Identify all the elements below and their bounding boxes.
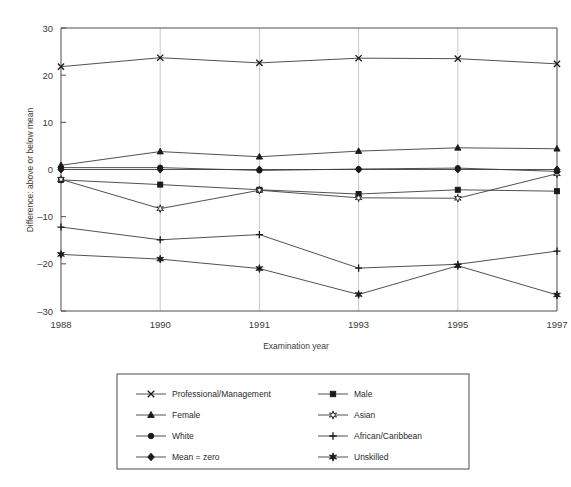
data-point-marker xyxy=(455,187,460,192)
y-tick-label: 10 xyxy=(42,117,53,128)
y-tick-label: 30 xyxy=(42,23,53,34)
x-tick-label: 1995 xyxy=(447,319,468,330)
legend-item-label: Male xyxy=(354,389,373,399)
x-tick-label: 1988 xyxy=(50,319,71,330)
legend-item-label: Female xyxy=(172,410,201,420)
x-axis-title: Examination year xyxy=(263,341,329,351)
legend-item-label: African/Caribbean xyxy=(354,431,422,441)
x-tick-label: 1991 xyxy=(249,319,270,330)
legend-item-label: Unskilled xyxy=(354,452,389,462)
x-tick-label: 1993 xyxy=(348,319,369,330)
legend-marker-icon xyxy=(330,391,335,396)
y-axis-title: Difference: above or below mean xyxy=(25,107,35,232)
legend-item-label: Mean = zero xyxy=(172,452,220,462)
x-tick-label: 1997 xyxy=(546,319,567,330)
legend-marker-icon xyxy=(148,433,154,439)
data-point-marker xyxy=(158,182,163,187)
line-chart: 3020100–10–20–30 19881990199119931995199… xyxy=(0,0,571,487)
legend-item-label: Professional/Management xyxy=(172,389,271,399)
x-tick-label: 1990 xyxy=(150,319,171,330)
y-tick-label: 20 xyxy=(42,70,53,81)
y-tick-label: 0 xyxy=(48,164,53,175)
data-point-marker xyxy=(554,189,559,194)
legend-item-label: White xyxy=(172,431,194,441)
y-tick-label: –30 xyxy=(37,306,53,317)
y-tick-label: –20 xyxy=(37,258,53,269)
chart-figure: 3020100–10–20–30 19881990199119931995199… xyxy=(0,0,571,487)
legend-item[interactable]: African/Caribbean xyxy=(318,431,422,441)
y-tick-label: –10 xyxy=(37,211,53,222)
legend-item-label: Asian xyxy=(354,410,376,420)
